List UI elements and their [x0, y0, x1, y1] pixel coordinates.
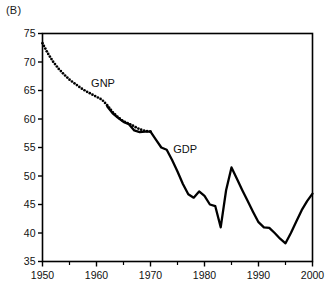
y-tick-label: 70: [24, 56, 36, 68]
series-label-gnp: GNP: [91, 77, 115, 89]
y-tick-label: 65: [24, 84, 36, 96]
chart-plot-area: 354045505560657075 195019601970198019902…: [0, 0, 335, 292]
x-tick-label: 1970: [139, 269, 163, 281]
y-tick-label: 60: [24, 113, 36, 125]
x-tick-label: 2000: [301, 269, 325, 281]
y-tick-label: 75: [24, 27, 36, 39]
y-tick-label: 45: [24, 198, 36, 210]
chart-figure: (B) 354045505560657075 19501960197019801…: [0, 0, 335, 292]
y-tick-label: 35: [24, 255, 36, 267]
x-tick-label: 1990: [247, 269, 271, 281]
y-tick-label: 55: [24, 141, 36, 153]
y-tick-label: 50: [24, 170, 36, 182]
series-label-gdp: GDP: [173, 143, 197, 155]
x-tick-label: 1950: [31, 269, 55, 281]
series-gdp: [107, 106, 312, 243]
x-tick-label: 1980: [193, 269, 217, 281]
y-axis-ticks: 354045505560657075: [24, 27, 43, 267]
x-tick-label: 1960: [85, 269, 109, 281]
y-tick-label: 40: [24, 227, 36, 239]
series-annotations: GNPGDP: [91, 77, 197, 155]
x-axis-ticks: 195019601970198019902000: [31, 262, 325, 281]
